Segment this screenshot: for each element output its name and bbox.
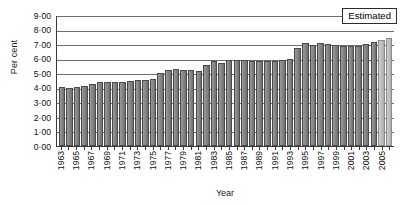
bar [180, 70, 187, 146]
bar [386, 38, 393, 146]
x-label-slot: 1977 [164, 151, 172, 185]
x-label-slot: 1995 [302, 151, 310, 185]
bar [378, 40, 385, 146]
bar [302, 43, 309, 146]
x-label-slot: 2003 [363, 151, 371, 185]
x-axis-title: Year [55, 188, 395, 198]
bar [211, 61, 218, 147]
bar [264, 61, 271, 147]
x-label-slot: 1987 [240, 151, 248, 185]
bar [150, 79, 157, 146]
x-label-slot: 2005 [378, 151, 386, 185]
bar [165, 70, 172, 146]
bar [157, 73, 164, 146]
bar [355, 46, 362, 146]
x-label-slot: 1975 [149, 151, 157, 185]
bar [188, 70, 195, 146]
bar [135, 80, 142, 146]
bar-chart-figure: Per cent 9·008·007·006·005·004·003·002·0… [0, 0, 401, 205]
x-label-slot: 1979 [179, 151, 187, 185]
bar [196, 71, 203, 146]
bar [272, 61, 279, 147]
x-label-slot: 1971 [118, 151, 126, 185]
x-label-slot: 1967 [88, 151, 96, 185]
x-label-slot: 2001 [347, 151, 355, 185]
plot-area [56, 16, 394, 147]
x-label-slot: 1985 [225, 151, 233, 185]
bar [59, 87, 66, 146]
bar-series [57, 16, 394, 146]
x-axis-tick-labels: 1963196519671969197119731975197719791981… [56, 151, 394, 185]
y-tick-label: 0·00 [34, 143, 51, 152]
bar [127, 81, 134, 146]
bar [119, 82, 126, 146]
bar [325, 44, 332, 146]
bar [348, 46, 355, 146]
bar [332, 45, 339, 146]
bar [81, 86, 88, 146]
bar [89, 84, 96, 146]
x-label-slot: 1991 [271, 151, 279, 185]
x-label-slot [386, 151, 394, 185]
bar [279, 60, 286, 146]
bar [66, 88, 73, 147]
x-label-slot: 1963 [57, 151, 65, 185]
bar [142, 80, 149, 146]
x-label-slot: 1999 [332, 151, 340, 185]
y-tick-label: 8·00 [34, 26, 51, 35]
y-tick-label: 5·00 [34, 70, 51, 79]
bar [112, 82, 119, 146]
bar [173, 69, 180, 146]
bar [371, 42, 378, 146]
y-tick-label: 2·00 [34, 114, 51, 123]
estimated-annotation: Estimated [342, 8, 397, 24]
x-label-slot: 1989 [256, 151, 264, 185]
x-label-slot: 1981 [195, 151, 203, 185]
y-tick-label: 1·00 [34, 128, 51, 137]
y-axis-tick-labels: 9·008·007·006·005·004·003·002·001·000·00 [0, 0, 56, 205]
bar [256, 61, 263, 146]
x-label-slot: 1993 [286, 151, 294, 185]
bar [203, 65, 210, 146]
bar [97, 82, 104, 146]
bar [310, 45, 317, 146]
bar [317, 43, 324, 146]
bar [363, 44, 370, 146]
x-label-slot: 1965 [72, 151, 80, 185]
x-label-slot: 1969 [103, 151, 111, 185]
bar [241, 60, 248, 146]
x-label-slot: 1983 [210, 151, 218, 185]
bar [226, 60, 233, 146]
y-tick-label: 6·00 [34, 55, 51, 64]
x-label-slot: 1997 [317, 151, 325, 185]
y-tick-label: 4·00 [34, 84, 51, 93]
y-tick-label: 3·00 [34, 99, 51, 108]
y-tick-label: 9·00 [34, 12, 51, 21]
bar [294, 48, 301, 146]
bar [287, 59, 294, 146]
bar [234, 60, 241, 146]
bar [249, 61, 256, 147]
x-label-slot: 1973 [133, 151, 141, 185]
bar [340, 46, 347, 146]
bar [74, 87, 81, 147]
bar [218, 63, 225, 146]
y-tick-label: 7·00 [34, 41, 51, 50]
bar [104, 82, 111, 146]
